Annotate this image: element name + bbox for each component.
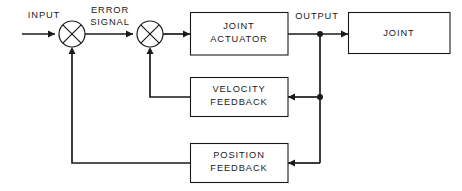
wire-position-feedback-to-sum1	[69, 47, 192, 163]
block-velocity-feedback-label-line2: FEEDBACK	[210, 97, 267, 107]
block-joint-label: JOINT	[383, 28, 414, 38]
block-velocity-feedback[interactable]: VELOCITY FEEDBACK	[191, 78, 289, 117]
wire-tap-to-velocity-feedback	[288, 94, 320, 101]
block-position-feedback[interactable]: POSITION FEEDBACK	[191, 144, 289, 183]
block-joint[interactable]: JOINT	[349, 13, 451, 54]
junction-dot-output-tap	[317, 31, 323, 37]
signal-label-error-line1: ERROR	[91, 5, 129, 15]
block-position-feedback-label-line1: POSITION	[213, 150, 265, 160]
block-diagram-canvas: JOINT ACTUATOR JOINT VELOCITY FEEDBACK P…	[0, 0, 462, 191]
block-position-feedback-label-line2: FEEDBACK	[210, 163, 267, 173]
block-diagram-svg: JOINT ACTUATOR JOINT VELOCITY FEEDBACK P…	[0, 0, 462, 191]
signal-label-output: OUTPUT	[295, 11, 339, 21]
block-velocity-feedback-label-line1: VELOCITY	[212, 84, 265, 94]
signal-label-error-line2: SIGNAL	[90, 17, 130, 27]
block-joint-actuator-label-line1: JOINT	[223, 21, 254, 31]
block-joint-actuator-label-line2: ACTUATOR	[210, 34, 267, 44]
wire-tap-to-position-feedback	[288, 160, 320, 167]
wire-velocity-feedback-to-sum2	[147, 47, 192, 97]
junction-dot-velocity-tap	[317, 94, 323, 100]
wire-sum2-to-joint-actuator	[163, 31, 190, 38]
wire-input-to-sum1	[22, 31, 55, 38]
summing-junction-2[interactable]	[137, 21, 163, 47]
signal-label-input: INPUT	[28, 10, 60, 20]
wire-sum1-to-sum2	[85, 31, 133, 38]
block-joint-actuator[interactable]: JOINT ACTUATOR	[191, 13, 289, 56]
summing-junction-1[interactable]	[59, 21, 85, 47]
